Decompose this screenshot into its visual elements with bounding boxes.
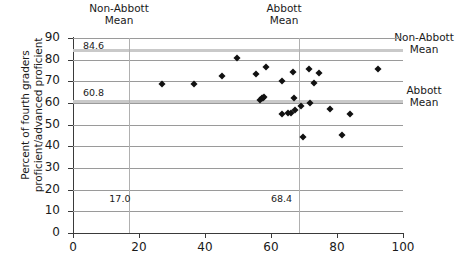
data-point	[289, 68, 296, 75]
y-tick-label-20: 20	[20, 182, 60, 196]
x-tick-label-20: 20	[119, 240, 159, 254]
top-callout-abbott-line2: Mean	[227, 14, 341, 26]
data-point	[278, 77, 285, 84]
x-axis-line	[73, 233, 404, 234]
top-callout-non-abbott-line2: Mean	[62, 14, 176, 26]
top-callout-non-abbott-line1: Non-Abbott	[62, 2, 176, 14]
data-point	[305, 65, 312, 72]
plot-area: 84.660.817.068.4	[73, 38, 403, 233]
x-tick-mark-80	[337, 234, 338, 238]
x-tick-label-40: 40	[185, 240, 225, 254]
gridline-y-50	[73, 125, 403, 126]
x-tick-mark-40	[205, 234, 206, 238]
y-tick-label-50: 50	[20, 117, 60, 131]
gridline-y-30	[73, 168, 403, 169]
x-tick-label-80: 80	[317, 240, 357, 254]
gridline-y-10	[73, 211, 403, 212]
data-point	[374, 65, 381, 72]
y-tick-label-40: 40	[20, 138, 60, 152]
x-tick-label-60: 60	[251, 240, 291, 254]
reference-band-h-60.8	[73, 100, 403, 103]
data-point	[252, 71, 259, 78]
y-tick-label-10: 10	[20, 203, 60, 217]
y-tick-label-60: 60	[20, 95, 60, 109]
gridline-y-90	[73, 38, 403, 39]
data-point	[347, 111, 354, 118]
x-tick-mark-0	[73, 234, 74, 238]
gridline-y-20	[73, 190, 403, 191]
x-tick-mark-20	[139, 234, 140, 238]
annotation-non-abbott-mean-y: 84.6	[83, 40, 104, 51]
data-point	[316, 69, 323, 76]
y-tick-label-0: 0	[20, 225, 60, 239]
top-callout-non-abbott-mean: Non-Abbott Mean	[62, 2, 176, 26]
x-tick-mark-100	[403, 234, 404, 238]
gridline-y-40	[73, 146, 403, 147]
y-tick-label-70: 70	[20, 73, 60, 87]
y-tick-label-30: 30	[20, 160, 60, 174]
x-tick-label-100: 100	[383, 240, 423, 254]
data-point	[263, 63, 270, 70]
top-callout-abbott-mean: Abbott Mean	[227, 2, 341, 26]
data-point	[219, 72, 226, 79]
annotation-abbott-mean-y: 60.8	[83, 87, 104, 98]
top-callout-abbott-line1: Abbott	[227, 2, 341, 14]
data-point	[326, 106, 333, 113]
x-tick-mark-60	[271, 234, 272, 238]
y-tick-label-90: 90	[20, 30, 60, 44]
reference-band-h-84.6	[73, 49, 403, 52]
gridline-y-70	[73, 81, 403, 82]
y-tick-label-80: 80	[20, 52, 60, 66]
annotation-abbott-mean-x: 68.4	[271, 193, 292, 204]
x-tick-label-0: 0	[53, 240, 93, 254]
annotation-non-abbott-mean-x: 17.0	[109, 193, 130, 204]
data-point	[300, 133, 307, 140]
data-point	[338, 132, 345, 139]
